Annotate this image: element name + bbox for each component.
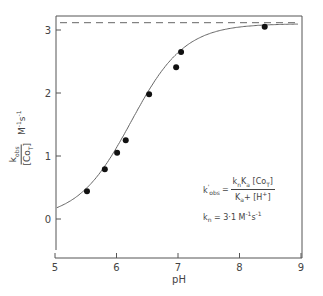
y-label-obs: obs	[13, 146, 20, 157]
eq-obs: obs	[209, 189, 220, 196]
data-point	[262, 24, 268, 30]
y-label-k: k	[8, 157, 18, 162]
equation-row: k'obs = knKa [CoT] Ka+ [H+]	[203, 178, 275, 203]
data-point	[114, 150, 120, 156]
data-point	[146, 91, 152, 97]
eq-num-bracket: ]	[270, 177, 273, 186]
eq-den-h: + [H	[244, 192, 262, 201]
x-tick-label: 5	[52, 262, 58, 273]
data-points	[84, 24, 268, 194]
equation-annotation: k'obs = knKa [CoT] Ka+ [H+] kn = 3·1 M-1…	[203, 178, 275, 224]
eq-lhs: k'obs	[203, 184, 220, 197]
x-tick-label: 6	[113, 262, 119, 273]
y-label-bracket: ]	[22, 143, 32, 147]
kn-exp2: -1	[256, 210, 262, 217]
y-axis-label: kobs [CoT] M-1s-1	[4, 88, 38, 188]
y-label-units: M-1s-1	[15, 111, 27, 135]
unit-s: s	[17, 117, 27, 122]
y-tick-label: 1	[45, 151, 51, 162]
x-tick-label: 7	[175, 262, 181, 273]
data-point	[84, 188, 90, 194]
data-point	[173, 64, 179, 70]
chart-plot: 56789 0123 pH	[0, 0, 323, 296]
eq-num-co: [Co	[250, 177, 266, 186]
eq-fraction: knKa [CoT] Ka+ [H+]	[231, 178, 275, 203]
data-point	[102, 166, 108, 172]
unit-exp2: -1	[15, 111, 22, 117]
unit-exp1: -1	[15, 121, 22, 127]
x-axis: 56789	[52, 253, 304, 273]
y-axis: 0123	[45, 25, 61, 225]
kn-val: = 3·1 M	[214, 213, 245, 222]
y-tick-label: 2	[45, 88, 51, 99]
y-tick-label: 0	[45, 214, 51, 225]
unit-m: M	[17, 127, 27, 135]
y-label-t: T	[26, 146, 33, 150]
x-axis-label: pH	[172, 274, 186, 285]
data-point	[123, 137, 129, 143]
y-tick-label: 3	[45, 25, 51, 36]
kn-n: n	[208, 216, 212, 223]
y-label-co: [Co	[22, 150, 32, 165]
eq-den-bracket: ]	[267, 192, 270, 201]
kn-value: kn = 3·1 M-1s-1	[203, 211, 275, 224]
eq-equals: =	[222, 186, 229, 195]
data-point	[178, 49, 184, 55]
x-tick-label: 9	[298, 262, 304, 273]
y-label-fraction: kobs [CoT]	[9, 143, 34, 166]
x-tick-label: 8	[236, 262, 242, 273]
